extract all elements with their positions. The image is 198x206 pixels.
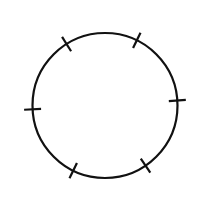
tick-mark-3: [169, 100, 186, 101]
tick-mark-2: [133, 33, 140, 48]
tick-mark-6: [24, 109, 41, 110]
circle-outline: [33, 33, 178, 178]
circle-diagram: [0, 0, 198, 206]
tick-marks: [24, 33, 186, 179]
tick-mark-1: [62, 37, 71, 51]
tick-mark-4: [141, 159, 151, 173]
tick-mark-5: [69, 163, 76, 178]
